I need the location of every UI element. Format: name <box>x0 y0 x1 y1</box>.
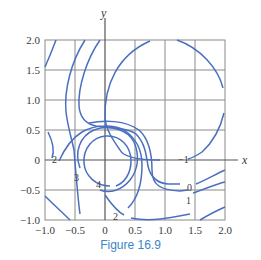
figure-caption: Figure 16.9 <box>0 238 261 252</box>
x-tick: −1.0 <box>35 224 55 236</box>
contour-label-1: 1 <box>186 195 191 206</box>
contour-plot: −1 0 1 2 2 3 4 y x 2.0 1.5 1.0 0.5 0 −0.… <box>0 0 261 260</box>
x-tick: 1.0 <box>158 224 172 236</box>
contour-label-2-left: 2 <box>52 154 57 165</box>
x-tick: 0.5 <box>128 224 142 236</box>
contour-label-neg1: −1 <box>178 154 189 165</box>
y-tick: 1.5 <box>26 64 40 76</box>
x-axis-label: x <box>241 153 248 167</box>
y-axis-label: y <box>100 6 107 20</box>
x-tick-labels: −1.0 −0.5 0 0.5 1.0 1.5 2.0 <box>35 224 232 236</box>
x-tick: 0 <box>102 224 108 236</box>
y-tick: 1.0 <box>26 94 40 106</box>
y-tick-labels: 2.0 1.5 1.0 0.5 0 −0.5 −1.0 <box>20 34 40 226</box>
x-tick: 1.5 <box>188 224 202 236</box>
y-tick: 0 <box>35 154 41 166</box>
contour-label-4: 4 <box>96 179 101 190</box>
contour-label-3: 3 <box>74 172 79 183</box>
contour-label-2-bottom: 2 <box>113 211 118 222</box>
x-tick: 2.0 <box>218 224 232 236</box>
y-tick: 0.5 <box>26 124 40 136</box>
contour-label-0: 0 <box>187 182 192 193</box>
y-tick: 2.0 <box>26 34 40 46</box>
x-tick: −0.5 <box>65 224 85 236</box>
y-tick: −0.5 <box>20 184 40 196</box>
